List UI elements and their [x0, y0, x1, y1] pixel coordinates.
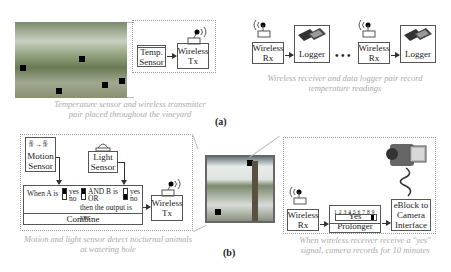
b-switch[interactable] [123, 188, 128, 200]
caption-b-left: Motion and light sensor detect nocturnal… [18, 234, 198, 254]
logger-icon [296, 27, 328, 45]
temp-sensor-box: Temp. Sensor [137, 45, 166, 67]
wireless-rx-box-a1: WirelessRx [252, 42, 284, 64]
caption-a-right: Wireless receiver and data logger pair r… [250, 73, 440, 93]
camera-icon [384, 138, 430, 200]
arrow [59, 157, 60, 184]
wireless-rx-box-b: WirelessRx [287, 209, 319, 231]
sensor-marker [119, 78, 125, 84]
antenna-icon [160, 178, 186, 200]
light-sensor-box: LightSensor [88, 151, 118, 173]
and-or-switch[interactable] [81, 188, 86, 200]
arrow [382, 223, 390, 224]
combine-box: When A is yes no AND OR B is yes no then… [23, 185, 143, 225]
wireless-rx-box-a2: WirelessRx [358, 42, 390, 64]
sensor-marker [102, 82, 108, 88]
yes-prolonger-box: 1 2 3 4 5 6 7 8 9 Yes Prolonger [329, 205, 381, 233]
antenna-icon [354, 19, 380, 41]
arrow [285, 55, 293, 56]
caption-b-right: When wireless receiver receive a "yes"si… [290, 235, 440, 255]
arrow [320, 224, 328, 225]
camera-interface-box: eBlock toCameraInterface [391, 199, 431, 231]
motion-icon: ꆜ→ꆜ [28, 138, 48, 149]
watering-hole-image [205, 155, 275, 223]
a-switch[interactable] [62, 188, 67, 200]
label-b: (b) [223, 247, 235, 258]
antenna-icon [186, 26, 212, 48]
antenna-icon [285, 186, 311, 208]
ellipsis: • • • [335, 50, 351, 61]
sensor-marker [79, 56, 85, 62]
label-a: (a) [215, 116, 227, 127]
sensor-marker [20, 65, 26, 71]
arrow [391, 55, 399, 56]
arrow [143, 207, 150, 208]
caption-a-left: Temperature sensor and wireless transmit… [40, 99, 220, 119]
arrow [167, 56, 176, 57]
arrow [124, 162, 125, 184]
sensor-marker [215, 209, 221, 215]
antenna-icon [249, 19, 275, 41]
logger-icon [402, 27, 434, 45]
light-sensor-dome-icon [95, 140, 111, 151]
sensor-marker [56, 88, 62, 94]
prolonger-slider[interactable] [335, 214, 377, 221]
vineyard-image [15, 22, 127, 98]
